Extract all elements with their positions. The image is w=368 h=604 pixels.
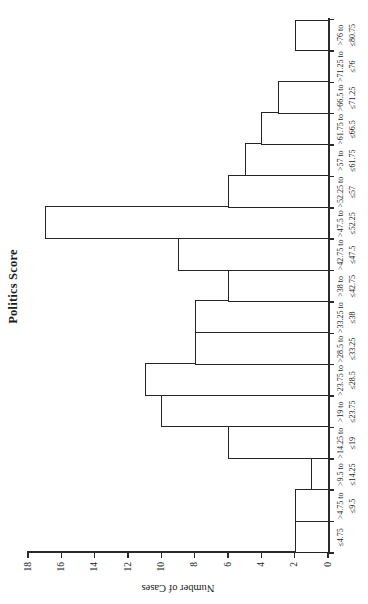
histogram-bar: [295, 520, 328, 553]
y-tick-label: 6: [223, 562, 234, 590]
histogram-bar: [45, 206, 328, 239]
histogram-bar: [145, 363, 328, 396]
y-tick-label: 14: [89, 562, 100, 590]
x-tick-mark: [329, 458, 334, 460]
y-tick-label: 18: [23, 562, 34, 590]
x-axis-bin-label: >76 to≤80.75: [335, 10, 358, 61]
histogram-bar: [178, 238, 328, 271]
y-tick-mark: [227, 553, 229, 559]
x-tick-mark: [329, 144, 334, 146]
histogram-bar: [295, 20, 328, 51]
y-tick-label: 10: [156, 562, 167, 590]
histogram-bar: [161, 395, 328, 428]
x-axis-line: [328, 19, 330, 554]
histogram-bar: [195, 332, 328, 365]
histogram-bar: [261, 112, 328, 145]
x-tick-mark: [329, 207, 334, 209]
x-tick-mark: [329, 552, 334, 554]
x-tick-mark: [329, 50, 334, 52]
x-tick-mark: [329, 176, 334, 178]
x-tick-mark: [329, 82, 334, 84]
x-tick-mark: [329, 333, 334, 335]
y-axis-line: [27, 552, 330, 554]
y-tick-mark: [127, 553, 129, 559]
x-tick-mark: [329, 270, 334, 272]
screenshot-root: Politics Score Number of Cases 024681012…: [0, 0, 368, 604]
bin-label-line: ≤80.75: [347, 10, 359, 61]
histogram-bar: [228, 175, 328, 208]
histogram-bar: [295, 489, 328, 522]
histogram-bar: [311, 457, 328, 490]
plot-area: 024681012141618 ≤4.75>4.75 to≤9.5>9.5 to…: [0, 0, 368, 604]
y-tick-label: 12: [123, 562, 134, 590]
histogram-bar: [195, 300, 328, 333]
x-tick-mark: [329, 238, 334, 240]
y-tick-label: 4: [256, 562, 267, 590]
y-tick-mark: [261, 553, 263, 559]
y-tick-label: 0: [323, 562, 334, 590]
y-tick-mark: [161, 553, 163, 559]
x-tick-mark: [329, 490, 334, 492]
x-tick-mark: [329, 19, 334, 21]
y-tick-label: 16: [56, 562, 67, 590]
histogram-bar: [228, 269, 328, 302]
y-tick-label: 8: [189, 562, 200, 590]
x-tick-mark: [329, 427, 334, 429]
y-tick-mark: [194, 553, 196, 559]
bin-label-line: >76 to: [335, 10, 347, 61]
y-tick-mark: [61, 553, 63, 559]
y-tick-label: 2: [289, 562, 300, 590]
x-tick-mark: [329, 395, 334, 397]
histogram-bar: [278, 81, 328, 114]
y-tick-mark: [294, 553, 296, 559]
x-tick-mark: [329, 113, 334, 115]
x-tick-mark: [329, 301, 334, 303]
y-tick-mark: [94, 553, 96, 559]
histogram-bar: [245, 143, 328, 176]
x-tick-mark: [329, 364, 334, 366]
histogram-bar: [228, 426, 328, 459]
y-tick-mark: [27, 553, 29, 559]
x-tick-mark: [329, 521, 334, 523]
histogram-chart: Politics Score Number of Cases 024681012…: [0, 0, 368, 604]
